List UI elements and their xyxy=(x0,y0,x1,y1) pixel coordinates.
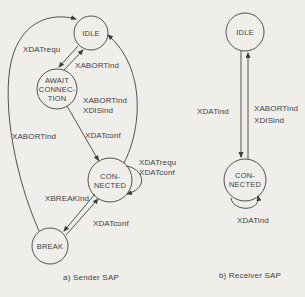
state-label-connected-2: NECTED xyxy=(94,181,126,190)
transition-label-xdatconf-loop: XDATconf xyxy=(139,168,175,177)
state-label-connected-1: CON- xyxy=(100,172,120,181)
state-diagram-figure: IDLE AWAIT CONNEC- TION CON- NECTED BREA… xyxy=(0,0,305,297)
state-label-idle-receiver: IDLE xyxy=(236,28,253,37)
transition-label-xdatind-down: XDATind xyxy=(197,107,229,116)
diagram-canvas: IDLE AWAIT CONNEC- TION CON- NECTED BREA… xyxy=(0,0,305,297)
caption-receiver-sap: b) Receiver SAP xyxy=(219,271,281,280)
transition-label-xdatrequ: XDATrequ xyxy=(23,45,60,54)
state-label-connected-receiver-2: NECTED xyxy=(229,180,261,189)
transition-label-xdatind-loop: XDATind xyxy=(237,216,269,225)
transition-label-xabortind-break-idle: XABORTind xyxy=(12,132,56,141)
transition-label-xdatconf-await-conn: XDATconf xyxy=(85,131,121,140)
state-label-idle: IDLE xyxy=(82,29,99,38)
sender-sap-diagram: IDLE AWAIT CONNEC- TION CON- NECTED BREA… xyxy=(8,16,176,282)
transition-label-xdatconf-break-conn: XDATconf xyxy=(93,219,129,228)
transition-label-xdisind-conn-idle: XDISind xyxy=(83,106,113,115)
transition-label-xdisind-receiver: XDISind xyxy=(254,116,284,125)
transition-label-xabortind-receiver: XABORTind xyxy=(254,104,298,113)
transition-label-xbreakind: XBREAKind xyxy=(45,194,89,203)
state-label-await-2: CONNEC- xyxy=(39,85,76,94)
state-label-connected-receiver-1: CON- xyxy=(235,171,255,180)
transition-label-xabortind-await-idle: XABORTind xyxy=(75,61,119,70)
state-label-await-1: AWAIT xyxy=(45,76,69,85)
transition-break-to-connected xyxy=(66,199,98,235)
state-label-await-3: TION xyxy=(48,94,67,103)
state-label-break: BREAK xyxy=(37,242,63,251)
receiver-sap-diagram: IDLE CON- NECTED XDATind XABORTind XDISi… xyxy=(197,13,298,280)
transition-label-xdatrequ-loop: XDATrequ xyxy=(139,158,176,167)
transition-label-xabortind-conn-idle: XABORTind xyxy=(83,96,127,105)
caption-sender-sap: a) Sender SAP xyxy=(63,273,119,282)
